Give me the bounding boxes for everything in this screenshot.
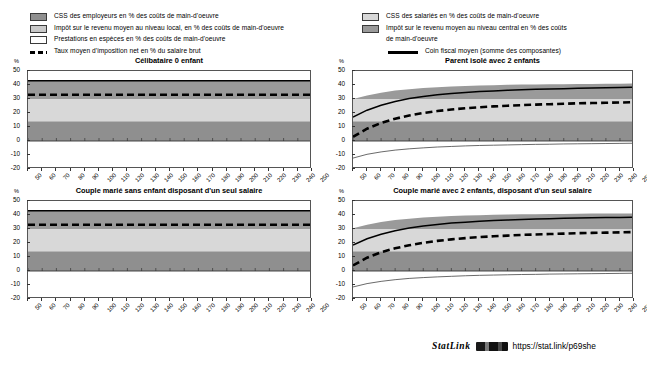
x-axis-label: 110 [120,172,131,183]
legend-swatch-employer-scc [30,13,47,21]
x-axis-tick [27,298,28,301]
x-axis-tick [55,168,56,171]
x-axis-tick [605,168,606,171]
x-axis-tick [521,298,522,301]
x-axis-label: 60 [373,172,382,181]
legend-label-local-income-tax: Impôt sur le revenu moyen au niveau loca… [54,24,284,33]
x-axis-tick [240,168,241,171]
x-axis-label: 170 [205,302,216,313]
x-axis-label: 90 [91,172,100,181]
x-axis-label: 100 [106,172,117,183]
y-axis-tick [27,242,30,243]
x-axis-tick [352,298,353,301]
legend-label-tax-wedge: Coin fiscal moyen (somme des composantes… [425,47,561,56]
x-axis-tick [183,168,184,171]
y-axis-label: 50 [327,196,345,203]
y-axis-label: 50 [327,66,345,73]
x-axis-label: 240 [305,302,316,313]
x-axis-label: 80 [77,302,86,311]
x-axis-tick [297,298,298,301]
x-axis-label: 170 [529,172,540,183]
x-axis-tick [549,168,550,171]
panel-couple-2-enfants: Couple marié avec 2 enfants, disposant d… [325,186,633,334]
figure-root: CSS des employeurs en % des coûts de mai… [0,0,647,370]
x-axis-tick [422,298,423,301]
y-axis-label: -20 [2,164,20,171]
x-axis-tick [112,298,113,301]
x-axis-label: 50 [34,172,43,181]
plot-area [352,200,633,298]
y-axis-label: 0 [327,266,345,273]
x-axis-tick [98,298,99,301]
y-axis-label: 30 [327,94,345,101]
series-layer [28,201,311,298]
legend-label-employer-scc: CSS des employeurs en % des coûts de mai… [54,12,219,21]
legend-label-central-income-tax: Impôt sur le revenu moyen au niveau cent… [386,24,567,33]
x-axis-label: 180 [543,302,554,313]
x-axis-tick [240,298,241,301]
x-axis-label: 240 [627,302,638,313]
x-axis-label: 120 [458,172,469,183]
x-axis-tick [169,298,170,301]
x-axis-label: 160 [514,302,525,313]
y-axis-tick [352,70,355,71]
legend-item-central-income-tax-line2: de main-d'oeuvre [362,35,647,45]
x-axis-label: 150 [177,172,188,183]
x-axis-label: 60 [48,302,57,311]
x-axis-label: 210 [262,302,273,313]
x-axis-label: 200 [248,172,259,183]
y-axis-label: 20 [327,238,345,245]
solid-line-icon [388,48,418,56]
legend-label-employee-scc: CSS des salariés en % des coûts de main-… [386,12,539,21]
y-axis-tick [27,256,30,257]
x-axis-label: 100 [430,302,441,313]
statlink-footer: StatLink https://stat.link/p69she [432,341,596,351]
y-axis-tick [27,200,30,201]
x-axis-tick [464,168,465,171]
x-axis-label: 170 [529,302,540,313]
y-axis-label: -10 [327,280,345,287]
x-axis-tick [226,168,227,171]
legend-column-right: CSS des salariés en % des coûts de main-… [362,12,647,59]
y-axis-tick [352,84,355,85]
y-axis-label: 50 [2,196,20,203]
x-axis-tick [197,298,198,301]
x-axis-label: 250 [641,302,647,313]
area-band [28,211,311,229]
x-axis-label: 210 [585,302,596,313]
x-axis-label: 180 [220,172,231,183]
x-axis-label: 220 [276,302,287,313]
y-axis-unit: % [14,188,19,194]
x-axis-label: 130 [472,172,483,183]
x-axis-label: 140 [163,302,174,313]
y-axis-label: 0 [2,136,20,143]
y-axis-label: 10 [327,122,345,129]
y-axis-tick [352,154,355,155]
x-axis-label: 190 [557,172,568,183]
y-axis-label: 20 [327,108,345,115]
y-axis-label: 40 [2,80,20,87]
x-axis-label: 130 [472,302,483,313]
legend-swatch-local-income-tax [30,25,47,33]
x-axis-label: 60 [48,172,57,181]
legend-item-local-income-tax: Impôt sur le revenu moyen au niveau loca… [30,24,335,34]
y-axis-label: 30 [2,224,20,231]
x-axis-tick [394,168,395,171]
y-axis-tick [27,214,30,215]
x-axis-tick [212,168,213,171]
x-axis-tick [41,298,42,301]
y-axis-tick [352,284,355,285]
x-axis-tick [197,168,198,171]
statlink-url[interactable]: https://stat.link/p69she [513,341,596,351]
legend-item-cash-benefits: Prestations en espèces en % des coûts de… [30,35,335,45]
x-axis-label: 210 [262,172,273,183]
benefits-line [353,143,633,158]
x-axis-tick [70,168,71,171]
x-axis-tick [563,298,564,301]
series-layer [353,201,633,298]
x-axis-tick [183,298,184,301]
x-axis-tick [535,298,536,301]
y-axis-tick [27,84,30,85]
x-axis-label: 110 [444,302,455,313]
x-axis-label: 90 [415,172,424,181]
